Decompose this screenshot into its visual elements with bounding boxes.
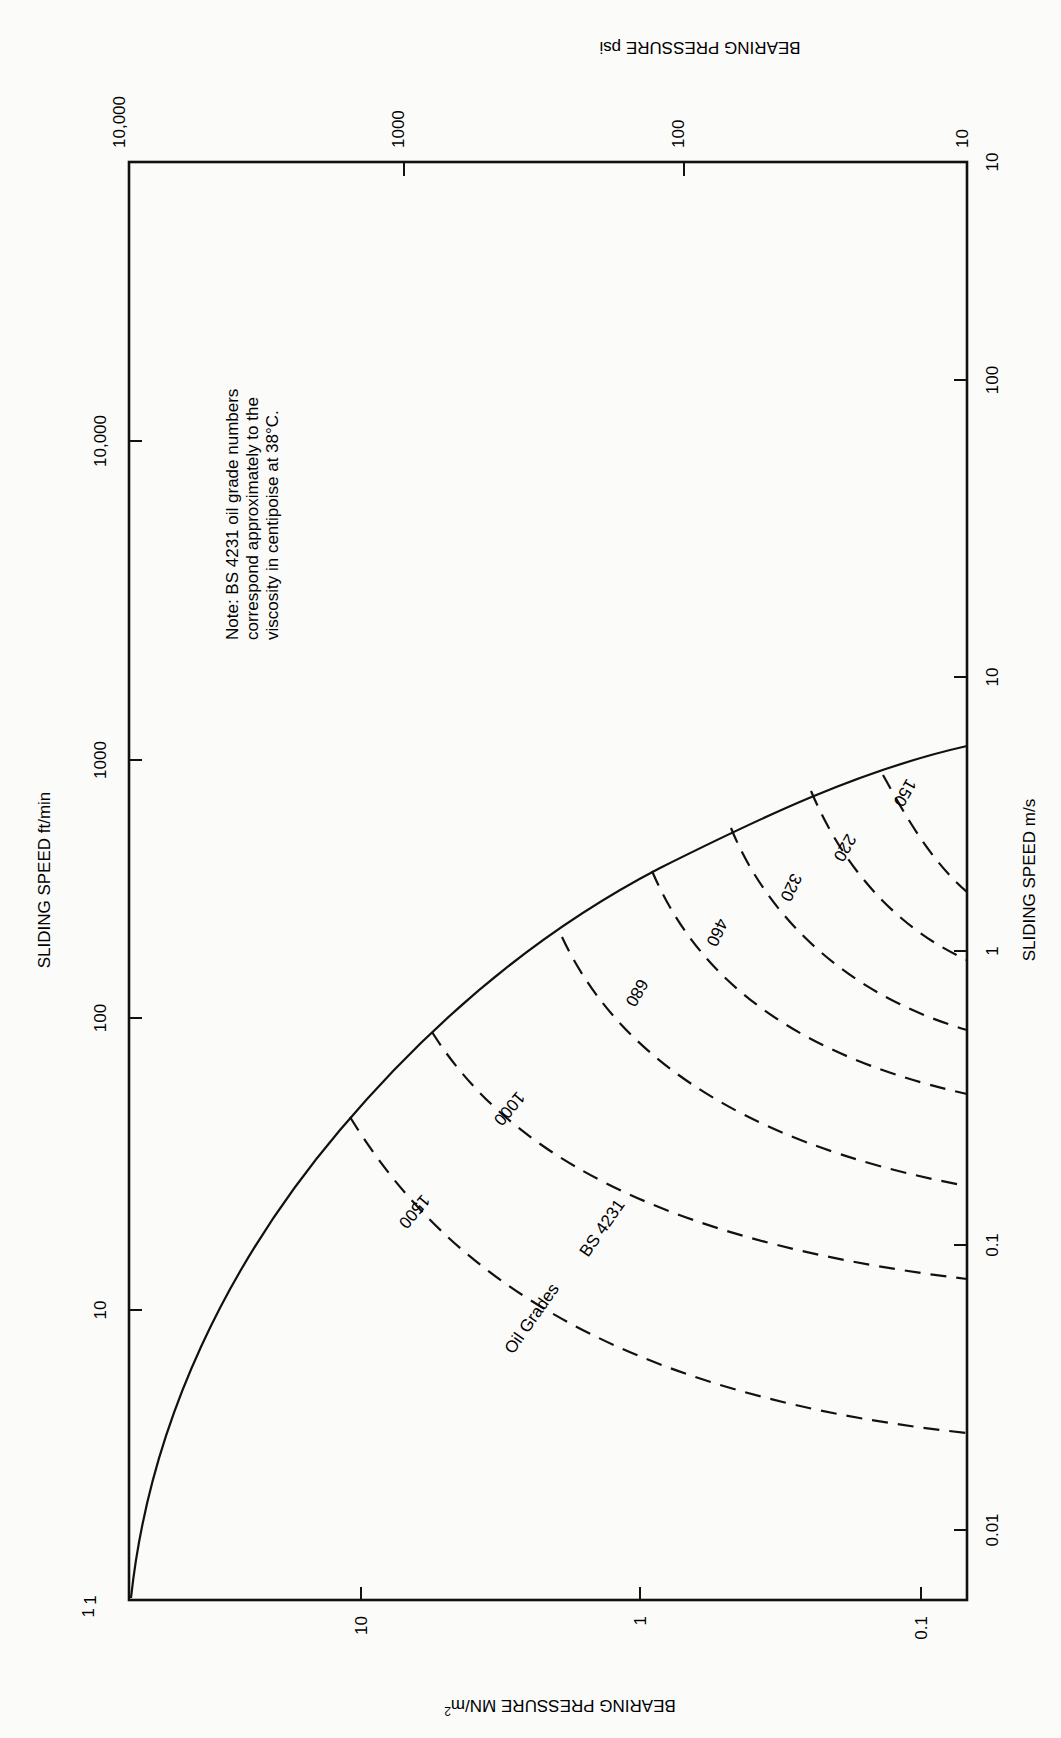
svg-text:10,000: 10,000 — [110, 96, 129, 148]
grade-curve-460 — [652, 871, 967, 1094]
svg-text:Note: BS 4231 oil grade number: Note: BS 4231 oil grade numbers — [223, 389, 242, 640]
grade-label-680: 680 — [621, 976, 652, 1010]
svg-text:1000: 1000 — [389, 110, 408, 148]
grade-label-220: 220 — [829, 831, 860, 865]
top-axis-ticks — [404, 162, 684, 176]
left-tick-labels: 10,000 1000 100 10 1 — [81, 415, 110, 1605]
left-axis-title: SLIDING SPEED ft/min — [35, 792, 54, 969]
oil-grades-label: Oil Grades — [501, 1280, 563, 1357]
grade-label-320: 320 — [776, 870, 805, 904]
svg-text:0.1: 0.1 — [983, 1233, 1002, 1257]
top-tick-labels: 10,000 1000 100 10 — [110, 96, 972, 148]
chart-canvas: BEARING PRESSURE psi BEARING PRESSURE MN… — [0, 0, 1061, 1738]
top-axis-title: BEARING PRESSURE psi — [599, 38, 800, 57]
plot-frame — [129, 162, 967, 1600]
bottom-axis-title: BEARING PRESSURE MN/m2 — [444, 1696, 676, 1718]
svg-text:10,000: 10,000 — [91, 415, 110, 467]
svg-text:10: 10 — [983, 668, 1002, 687]
svg-text:0.1: 0.1 — [912, 1616, 931, 1640]
svg-text:1: 1 — [631, 1616, 650, 1625]
svg-text:10: 10 — [953, 129, 972, 148]
note-text: Note: BS 4231 oil grade numbers correspo… — [223, 389, 282, 640]
grade-curve-220 — [811, 791, 967, 960]
grade-label-150: 150 — [889, 776, 920, 810]
bs-4231-label: BS 4231 — [576, 1196, 629, 1260]
svg-text:100: 100 — [91, 1004, 110, 1032]
svg-text:0.01: 0.01 — [983, 1513, 1002, 1546]
grade-label-1000: 1000 — [490, 1088, 529, 1129]
svg-text:10: 10 — [983, 153, 1002, 172]
left-axis-ticks — [129, 441, 142, 1310]
right-tick-labels: 10 100 10 1 0.1 0.01 — [983, 153, 1002, 1547]
grade-label-460: 460 — [702, 915, 731, 949]
svg-text:1: 1 — [81, 1595, 100, 1604]
limiting-envelope-curve — [131, 746, 967, 1598]
svg-text:10: 10 — [91, 1301, 110, 1320]
grade-label-1500: 1500 — [395, 1191, 434, 1232]
svg-text:100: 100 — [983, 366, 1002, 394]
svg-text:10: 10 — [352, 1616, 371, 1635]
right-axis-title: SLIDING SPEED m/s — [1020, 799, 1039, 961]
bottom-tick-labels: 1 10 1 0.1 — [79, 1608, 931, 1640]
oil-grade-curves — [350, 775, 967, 1433]
svg-text:1: 1 — [983, 946, 1002, 955]
grade-curve-680 — [562, 937, 967, 1186]
svg-text:1: 1 — [79, 1608, 98, 1617]
bottom-axis-ticks — [361, 1587, 921, 1600]
svg-text:100: 100 — [669, 120, 688, 148]
grade-labels: 150 220 320 460 680 1000 1500 — [395, 776, 920, 1232]
svg-text:correspond approximately to th: correspond approximately to the — [243, 397, 262, 640]
svg-text:viscosity in centipoise at 38°: viscosity in centipoise at 38°C. — [263, 410, 282, 640]
svg-text:1000: 1000 — [91, 741, 110, 779]
grade-curve-1000 — [432, 1032, 967, 1279]
